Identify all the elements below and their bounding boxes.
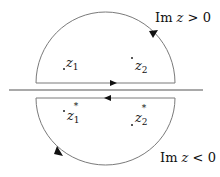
lower-contour [36, 98, 175, 165]
upper-arc-arrow-icon [149, 30, 158, 38]
lower-chord-arrow-icon [104, 95, 111, 101]
z2-point [131, 57, 133, 59]
upper-chord-arrow-icon [110, 80, 117, 86]
upper-half-plane-label: Im z > 0 [155, 11, 211, 24]
z1-point [63, 68, 65, 70]
z1-conj-label: z*1 [67, 109, 80, 125]
z2-conj-label: z*2 [135, 111, 148, 127]
z1-conj-point [63, 110, 65, 112]
lower-half-plane-label: Im z < 0 [160, 151, 216, 164]
z2-label: z2 [135, 59, 148, 75]
z1-label: z1 [66, 56, 79, 72]
z2-conj-point [131, 124, 133, 126]
